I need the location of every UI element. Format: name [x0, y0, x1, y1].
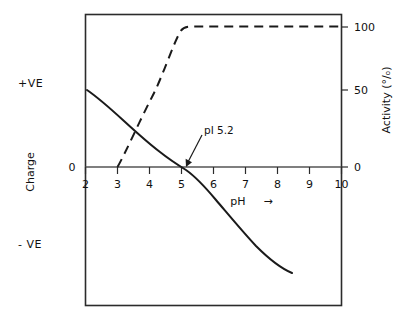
- x-tick-label-9: 9: [306, 178, 313, 191]
- left-axis-zero-label: 0: [69, 161, 76, 174]
- x-tick-label-10: 10: [335, 178, 349, 191]
- left-axis-title: Charge: [24, 152, 37, 192]
- left-axis-positive-label: +VE: [18, 77, 43, 90]
- right-axis-title: Activity (°/ₒ): [380, 67, 393, 134]
- right-tick-label-50: 50: [354, 84, 368, 97]
- x-axis-arrow-icon: →: [263, 195, 272, 208]
- x-tick-label-6: 6: [210, 178, 217, 191]
- x-tick-label-5: 5: [178, 178, 185, 191]
- plot-frame: [86, 15, 342, 306]
- x-axis-title: pH: [230, 195, 245, 208]
- x-axis-ticks: [86, 167, 342, 174]
- x-tick-label-8: 8: [274, 178, 281, 191]
- x-tick-label-7: 7: [242, 178, 249, 191]
- pi-leader-line: [188, 135, 203, 163]
- pi-annotation-label: pI 5.2: [204, 124, 234, 136]
- right-axis-ticks: [342, 27, 349, 167]
- x-tick-label-4: 4: [146, 178, 153, 191]
- x-tick-label-2: 2: [82, 178, 89, 191]
- figure-page: 2 3 4 5 6 7 8 9 10 pH → +VE 0 - VE Charg…: [0, 0, 401, 324]
- right-tick-label-0: 0: [354, 161, 361, 174]
- right-tick-label-100: 100: [354, 21, 375, 34]
- x-tick-label-3: 3: [114, 178, 121, 191]
- ph-charge-activity-chart: 2 3 4 5 6 7 8 9 10 pH → +VE 0 - VE Charg…: [0, 0, 401, 324]
- left-axis-negative-label: - VE: [18, 238, 42, 251]
